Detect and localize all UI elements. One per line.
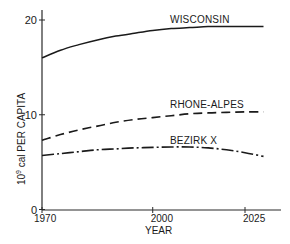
x-axis-title: YEAR	[145, 225, 172, 236]
x-tick-label: 2025	[243, 213, 266, 224]
x-tick-label: 2000	[151, 213, 174, 224]
y-axis-title-rest: cal PER CAPITA	[16, 93, 27, 170]
line-chart: 01020 197020002025 WISCONSIN RHONE-ALPES…	[0, 0, 290, 244]
series-line-wisconsin	[42, 27, 264, 58]
y-axis-title: 109 cal PER CAPITA	[15, 93, 27, 185]
series-group	[42, 27, 264, 157]
y-axis-title-base: 10	[16, 173, 27, 185]
series-label-rhone-alpes: RHONE-ALPES	[170, 99, 244, 110]
x-tick-label: 1970	[34, 213, 57, 224]
series-line-rhone-alpes	[42, 112, 264, 140]
series-label-bezirk-x: BEZIRK X	[170, 135, 217, 146]
series-label-wisconsin: WISCONSIN	[170, 14, 230, 25]
y-tick-label: 20	[25, 14, 37, 26]
series-line-bezirk-x	[42, 147, 264, 157]
